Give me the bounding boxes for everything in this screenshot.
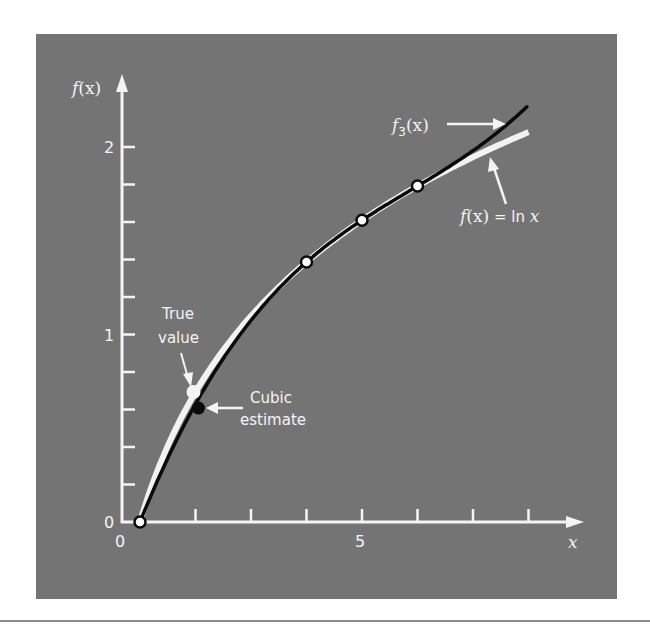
ln-curve	[140, 132, 529, 522]
chart-svg: 2 1 0 0 5 x f(x) True value Cubic estima…	[0, 0, 650, 629]
ln-label: f(x) = ln x	[458, 206, 540, 226]
data-point-marker	[301, 257, 312, 268]
x-axis-arrow-icon	[566, 516, 584, 528]
cubic-estimate-label-line2: estimate	[240, 411, 306, 429]
ln-arrowhead-icon	[488, 157, 499, 172]
x-tick-label-0: 0	[115, 532, 125, 551]
true-value-marker	[187, 385, 201, 399]
y-ticks	[122, 147, 135, 485]
cubic-estimate-label-line1: Cubic	[250, 389, 292, 407]
f3-label-subscript: 3	[398, 125, 406, 139]
ln-label-eq: = ln	[489, 208, 530, 226]
true-value-label-line2: value	[158, 329, 199, 347]
y-axis-label-arg: (x)	[78, 78, 101, 98]
x-axis-label: x	[568, 532, 578, 552]
f3-label-arg: (x)	[406, 115, 429, 135]
true-value-arrowhead-icon	[183, 372, 193, 387]
y-axis-label: f(x)	[70, 78, 101, 98]
cubic-curve	[140, 107, 527, 522]
data-point-marker	[357, 215, 368, 226]
data-points	[135, 181, 424, 528]
ln-arrow	[494, 168, 506, 204]
true-value-label-line1: True	[161, 305, 194, 323]
ln-label-arg: (x)	[466, 206, 489, 226]
x-tick-label-5: 5	[355, 532, 365, 551]
data-point-marker	[135, 517, 146, 528]
x-ticks	[196, 509, 529, 522]
y-tick-label-0: 0	[104, 513, 114, 532]
f3-label: f3(x)	[390, 115, 429, 139]
y-axis-arrow-icon	[116, 74, 128, 92]
data-point-marker	[412, 181, 423, 192]
ln-label-x: x	[530, 206, 540, 226]
y-tick-label-1: 1	[104, 326, 114, 345]
cubic-estimate-arrowhead-icon	[206, 402, 218, 414]
cubic-estimate-marker	[192, 402, 205, 415]
y-tick-label-2: 2	[104, 138, 114, 157]
